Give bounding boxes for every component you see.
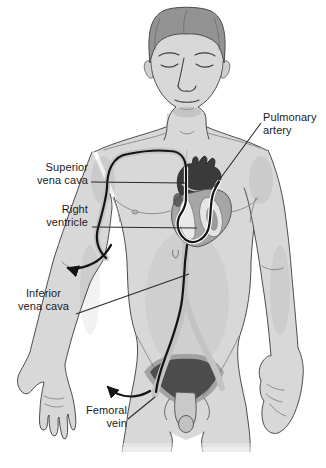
left-nipple: [132, 210, 138, 214]
bottom-fade: [110, 443, 260, 468]
label-superior-vena-cava: Superior vena cava: [30, 161, 88, 186]
label-femoral-vein: Femoral vein: [76, 404, 127, 429]
label-pulmonary-artery: Pulmonary artery: [263, 111, 325, 136]
medical-diagram-catheter-insertion: Pulmonary artery Superior vena cava Righ…: [0, 0, 326, 468]
neck-shadow: [173, 107, 201, 118]
label-inferior-vena-cava: Inferior vena cava: [13, 287, 74, 312]
human-figure-illustration: [0, 0, 326, 468]
glans: [179, 416, 194, 433]
label-right-ventricle: Right ventricle: [34, 203, 88, 228]
